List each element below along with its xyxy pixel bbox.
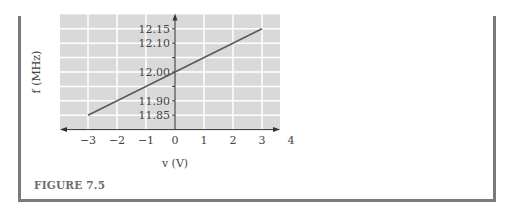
y-tick-labels: 11.8511.9012.0012.1012.15 bbox=[139, 23, 171, 122]
svg-text:4: 4 bbox=[288, 134, 295, 147]
svg-text:−3: −3 bbox=[80, 134, 96, 147]
svg-text:11.85: 11.85 bbox=[139, 109, 171, 122]
svg-text:12.15: 12.15 bbox=[139, 23, 171, 36]
svg-text:0: 0 bbox=[172, 134, 179, 147]
svg-text:11.90: 11.90 bbox=[139, 95, 171, 108]
svg-text:3: 3 bbox=[259, 134, 266, 147]
x-tick-labels: −3−2−101234 bbox=[80, 134, 295, 147]
y-axis-label: f (MHz) bbox=[30, 51, 43, 94]
figure-caption: FIGURE 7.5 bbox=[34, 179, 105, 191]
svg-text:−1: −1 bbox=[138, 134, 154, 147]
x-axis-label: v (V) bbox=[161, 157, 188, 170]
svg-text:1: 1 bbox=[201, 134, 208, 147]
svg-text:12.00: 12.00 bbox=[139, 66, 171, 79]
svg-text:12.10: 12.10 bbox=[139, 37, 171, 50]
svg-text:2: 2 bbox=[230, 134, 237, 147]
svg-text:−2: −2 bbox=[109, 134, 125, 147]
